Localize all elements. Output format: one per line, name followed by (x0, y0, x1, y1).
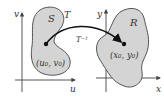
forward-map-label: T (64, 9, 71, 20)
diagram-canvas: v u S (u₀, v₀) T T⁻¹ y x R (x₀, y₀) (0, 0, 164, 100)
region-r (97, 8, 149, 87)
inverse-map-label: T⁻¹ (76, 35, 88, 44)
region-s-label: S (48, 13, 55, 24)
y-axis-label: y (96, 9, 103, 19)
u-axis-label: u (70, 84, 76, 94)
transformation-diagram: v u S (u₀, v₀) T T⁻¹ y x R (x₀, y₀) (0, 0, 164, 100)
point-u0-v0 (44, 42, 48, 46)
v-axis-label: v (14, 9, 19, 19)
region-r-label: R (129, 17, 138, 28)
point-x0-y0-label: (x₀, y₀) (110, 50, 138, 60)
point-x0-y0 (122, 42, 126, 46)
point-u0-v0-label: (u₀, v₀) (36, 58, 65, 68)
x-axis-label: x (156, 84, 161, 94)
